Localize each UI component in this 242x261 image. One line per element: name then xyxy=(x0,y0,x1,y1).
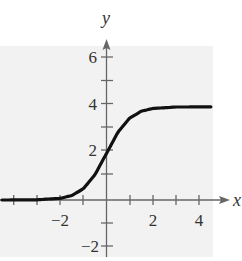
y-tick-label: −2 xyxy=(81,237,99,256)
x-tick-label: 2 xyxy=(149,211,158,230)
y-tick-label: 2 xyxy=(89,141,98,160)
y-tick-label: 4 xyxy=(89,95,98,114)
x-tick-label: 4 xyxy=(195,211,204,230)
function-graph: −2 2 4 x 6 4 2 −2 y xyxy=(0,0,242,261)
y-axis-label: y xyxy=(100,8,110,28)
y-tick-label: 6 xyxy=(89,48,98,67)
x-axis-label: x xyxy=(232,190,241,210)
x-tick-label: −2 xyxy=(51,211,69,230)
